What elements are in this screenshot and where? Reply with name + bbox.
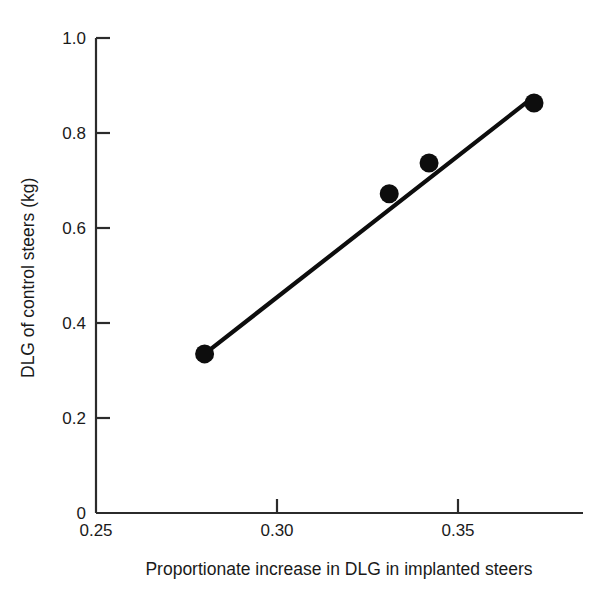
data-point-marker <box>420 153 439 172</box>
x-axis-tick-labels: 0.250.300.35 <box>79 521 474 540</box>
y-tick-label: 0.6 <box>62 219 86 238</box>
x-tick-label: 0.30 <box>260 521 293 540</box>
chart-figure: 00.20.40.60.81.0 0.250.300.35 DLG of con… <box>0 0 610 591</box>
y-axis-ticks <box>96 38 110 418</box>
regression-line-path <box>205 97 533 354</box>
y-axis-title: DLG of control steers (kg) <box>18 178 38 378</box>
x-tick-label: 0.35 <box>441 521 474 540</box>
x-axis-ticks <box>277 499 458 513</box>
y-tick-label: 0.4 <box>62 314 86 333</box>
x-axis-title: Proportionate increase in DLG in implant… <box>145 559 532 579</box>
y-tick-label: 1.0 <box>62 29 86 48</box>
y-tick-label: 0.8 <box>62 124 86 143</box>
y-tick-label: 0.2 <box>62 409 86 428</box>
y-axis-tick-labels: 00.20.40.60.81.0 <box>62 29 86 523</box>
data-point-marker <box>380 184 399 203</box>
regression-line <box>205 97 533 354</box>
data-point-marker <box>195 344 214 363</box>
data-point-marker <box>525 94 544 113</box>
scatter-plot-svg: 00.20.40.60.81.0 0.250.300.35 DLG of con… <box>0 0 610 591</box>
x-tick-label: 0.25 <box>79 521 112 540</box>
